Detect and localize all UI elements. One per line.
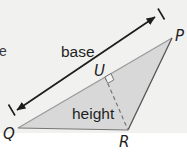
geometry-figure: base height P Q R U e [0, 0, 187, 152]
height-label: height [72, 105, 115, 122]
base-arrow-top-tick [158, 9, 165, 20]
vertex-label-p: P [175, 27, 185, 45]
vertex-label-r: R [119, 133, 129, 151]
base-arrow-bottom-tick [9, 105, 16, 116]
cutoff-text-fragment: e [0, 43, 7, 59]
base-label: base [61, 43, 95, 60]
vertex-label-q: Q [3, 125, 15, 143]
page-bottom-strip [0, 133, 187, 152]
vertex-label-u: U [94, 62, 105, 80]
triangle-diagram-canvas: base height P Q R U e [0, 0, 187, 152]
